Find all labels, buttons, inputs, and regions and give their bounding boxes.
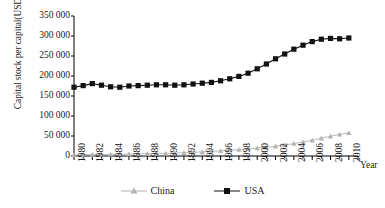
x-tick-label: 1984 [115,143,125,162]
x-tick-label: 1990 [170,143,180,162]
x-tick-label: 1982 [96,143,106,162]
x-tick-label: 1988 [151,143,161,162]
x-tick-label: 1998 [243,143,253,162]
chart-figure: Capital stock per capital(USD) 350 00030… [0,0,385,208]
chart-legend: ChinaUSA [0,186,385,196]
x-tick-label: 1992 [188,143,198,162]
legend-item-usa[interactable]: USA [214,186,264,196]
x-axis-title: Year [360,160,378,170]
x-tick-label: 2000 [261,143,271,162]
legend-label: USA [244,186,264,196]
x-tick-label: 1986 [133,143,143,162]
legend-label: China [151,186,175,196]
x-axis-tick-labels: 1980198219841986198819901992199419961998… [0,0,385,208]
x-tick-label: 2006 [316,143,326,162]
legend-square-marker-icon [214,186,240,196]
legend-item-china[interactable]: China [121,186,175,196]
x-tick-label: 2002 [280,143,290,162]
x-tick-label: 2004 [298,143,308,162]
legend-triangle-marker-icon [121,186,147,196]
x-tick-label: 1996 [225,143,235,162]
x-tick-label: 1980 [78,143,88,162]
x-tick-label: 1994 [206,143,216,162]
x-tick-label: 2008 [335,143,345,162]
